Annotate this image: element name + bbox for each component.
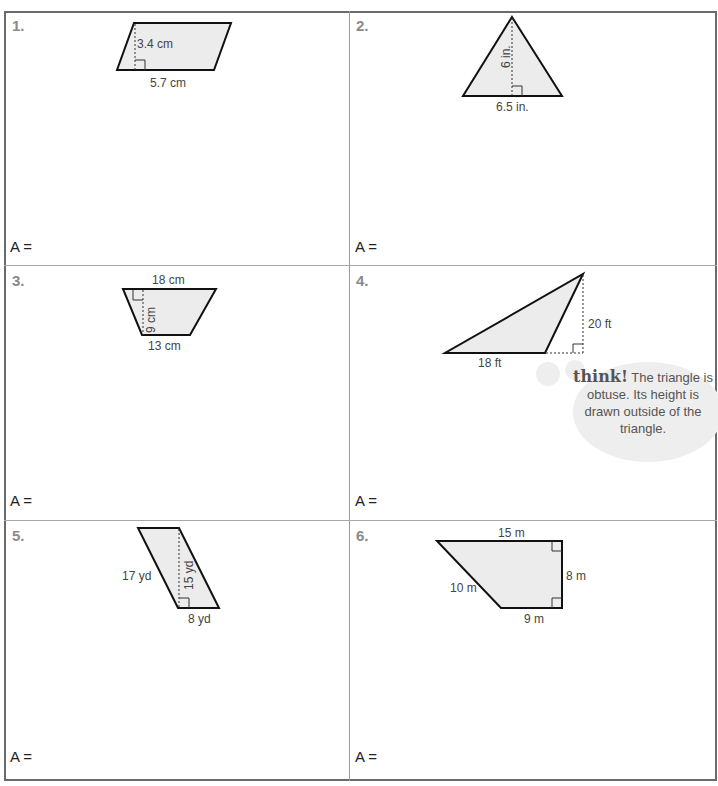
fig6-bottom-base-label: 9 m xyxy=(524,612,544,626)
fig6-height-label: 8 m xyxy=(566,569,586,583)
fig6-slant-label: 10 m xyxy=(450,581,477,595)
fig6-top-base-label: 15 m xyxy=(498,526,525,540)
